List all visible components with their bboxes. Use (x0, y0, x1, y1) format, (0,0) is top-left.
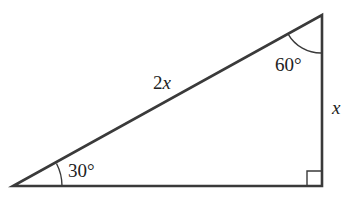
angle-arc-60 (288, 34, 322, 53)
angle-label-30: 30° (68, 160, 95, 181)
hypotenuse-var: x (162, 72, 172, 93)
right-angle-marker (307, 171, 322, 186)
triangle-figure: 30° 60° 2x x (0, 0, 345, 209)
hypotenuse-coef: 2 (153, 72, 163, 93)
triangle-diagram: 30° 60° 2x x (0, 0, 345, 209)
hypotenuse-label: 2x (153, 72, 172, 93)
vertical-leg-label: x (331, 97, 341, 118)
triangle-outline (13, 15, 322, 186)
angle-label-60: 60° (275, 54, 302, 75)
angle-arc-30 (57, 164, 63, 187)
